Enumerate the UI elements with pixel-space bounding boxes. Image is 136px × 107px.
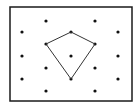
lattice-dot	[93, 19, 96, 22]
lattice-dot	[20, 77, 23, 80]
lattice-dot	[116, 77, 119, 80]
diagram-frame	[10, 7, 132, 101]
lattice-dot	[20, 54, 23, 57]
lattice-dot	[93, 66, 96, 69]
lattice-dot	[20, 30, 23, 33]
lattice-dots	[20, 19, 119, 92]
lattice-dot	[44, 89, 47, 92]
lattice-dot	[44, 66, 47, 69]
lattice-dot	[116, 30, 119, 33]
lattice-dot	[44, 19, 47, 22]
lattice-dot	[116, 54, 119, 57]
lattice-dot	[93, 89, 96, 92]
lattice-dot	[69, 54, 72, 57]
dot-grid-diagram	[0, 0, 136, 107]
